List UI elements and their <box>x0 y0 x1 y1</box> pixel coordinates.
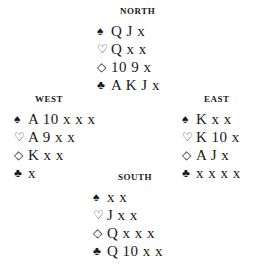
club-icon: ♣ <box>14 164 28 182</box>
south-label: SOUTH <box>118 172 152 182</box>
south-diamonds-row: ◇Q x x x <box>93 224 155 242</box>
east-diamonds-cards: A J x <box>196 146 229 164</box>
club-icon: ♣ <box>93 242 107 260</box>
heart-icon: ♡ <box>182 128 196 146</box>
club-icon: ♣ <box>97 76 111 94</box>
diamond-icon: ◇ <box>93 224 107 242</box>
south-spades-row: ♠x x <box>93 188 127 206</box>
east-spades-cards: K x x <box>196 110 232 128</box>
north-label: NORTH <box>120 6 155 16</box>
club-icon: ♣ <box>182 164 196 182</box>
spade-icon: ♠ <box>93 188 107 206</box>
west-clubs-row: ♣x <box>14 164 36 182</box>
east-hearts-row: ♡K 10 x <box>182 128 240 146</box>
south-diamonds-cards: Q x x x <box>107 224 155 242</box>
east-diamonds-row: ◇A J x <box>182 146 229 164</box>
west-clubs-cards: x <box>28 164 36 182</box>
diamond-icon: ◇ <box>14 146 28 164</box>
south-hearts-cards: J x x <box>107 206 138 224</box>
north-clubs-cards: A K J x <box>111 76 160 94</box>
west-spades-cards: A 10 x x x <box>28 110 96 128</box>
north-spades-cards: Q J x <box>111 22 145 40</box>
west-spades-row: ♠A 10 x x x <box>14 110 96 128</box>
east-clubs-cards: x x x x <box>196 164 241 182</box>
west-label: WEST <box>35 94 63 104</box>
south-clubs-row: ♣Q 10 x x <box>93 242 163 260</box>
west-diamonds-row: ◇K x x <box>14 146 64 164</box>
east-spades-row: ♠K x x <box>182 110 232 128</box>
spade-icon: ♠ <box>182 110 196 128</box>
south-spades-cards: x x <box>107 188 127 206</box>
spade-icon: ♠ <box>97 22 111 40</box>
heart-icon: ♡ <box>93 206 107 224</box>
west-diamonds-cards: K x x <box>28 146 64 164</box>
spade-icon: ♠ <box>14 110 28 128</box>
north-hearts-row: ♡Q x x <box>97 40 147 58</box>
north-diamonds-cards: 10 9 x <box>111 58 152 76</box>
heart-icon: ♡ <box>14 128 28 146</box>
east-clubs-row: ♣x x x x <box>182 164 241 182</box>
east-hearts-cards: K 10 x <box>196 128 240 146</box>
north-hearts-cards: Q x x <box>111 40 147 58</box>
heart-icon: ♡ <box>97 40 111 58</box>
north-spades-row: ♠Q J x <box>97 22 145 40</box>
north-diamonds-row: ◇10 9 x <box>97 58 152 76</box>
north-clubs-row: ♣A K J x <box>97 76 160 94</box>
east-label: EAST <box>204 94 230 104</box>
diamond-icon: ◇ <box>97 58 111 76</box>
south-clubs-cards: Q 10 x x <box>107 242 163 260</box>
west-hearts-cards: A 9 x x <box>28 128 75 146</box>
diamond-icon: ◇ <box>182 146 196 164</box>
west-hearts-row: ♡A 9 x x <box>14 128 75 146</box>
south-hearts-row: ♡J x x <box>93 206 138 224</box>
